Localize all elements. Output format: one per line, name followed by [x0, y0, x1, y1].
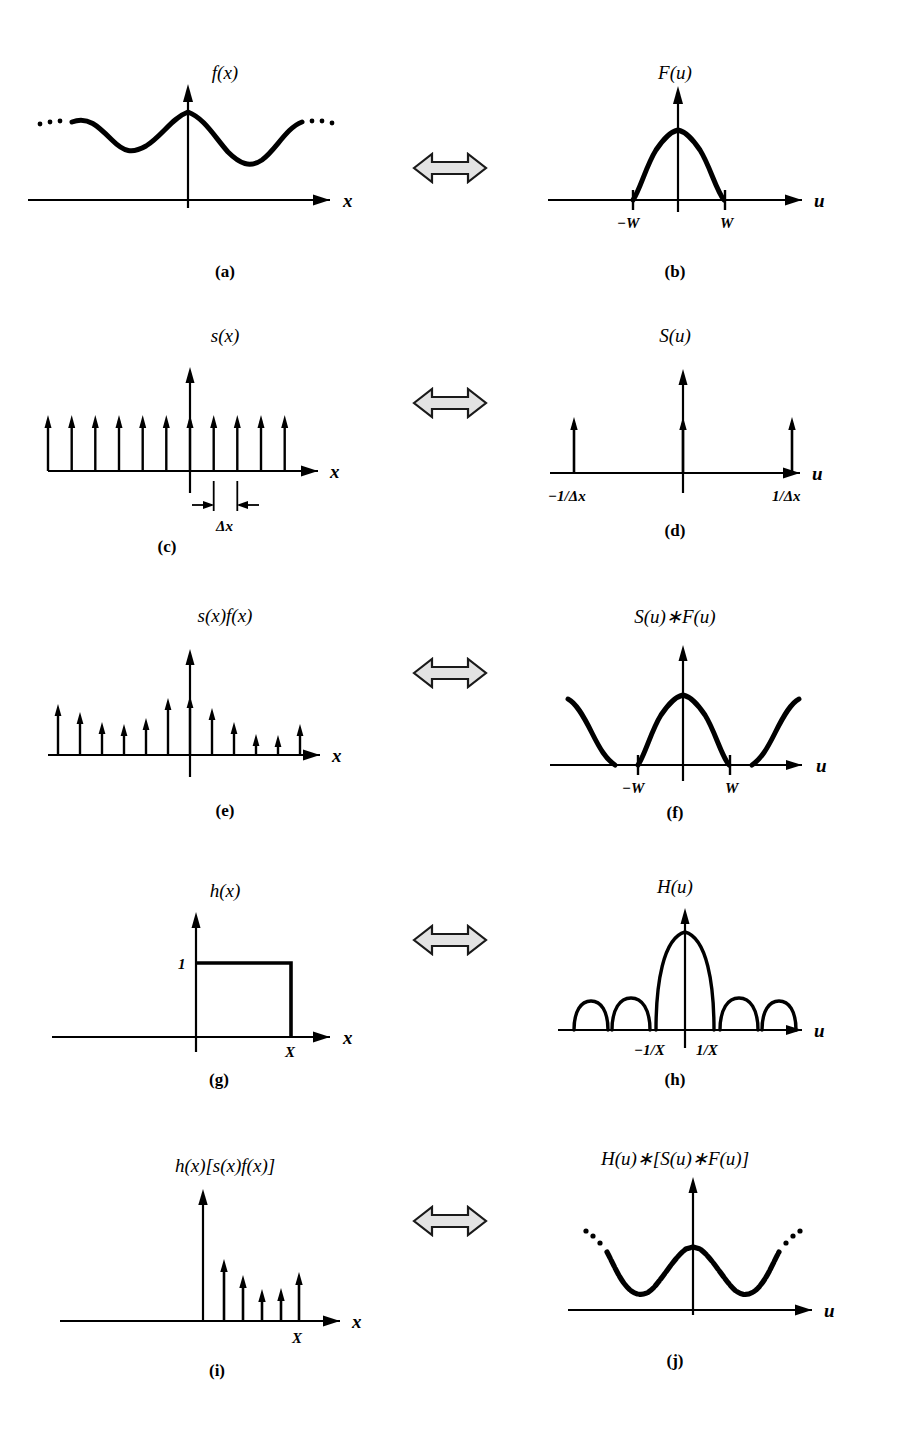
panel-g-plot: 1 X x: [0, 880, 450, 1080]
u-axis-arrowhead: [785, 195, 802, 206]
panel-i-caption: (i): [0, 1361, 442, 1381]
panel-c-caption: (c): [0, 537, 392, 557]
panel-f-tick-label-plus-w: W: [725, 780, 740, 796]
panel-b-caption: (b): [450, 262, 900, 282]
impulse-minus-one-over-delta-x: [570, 417, 577, 473]
panel-c-title: s(x): [0, 325, 450, 347]
panel-f-tick-label-minus-w: −W: [622, 780, 646, 796]
panel-c: s(x): [0, 325, 450, 555]
panel-c-plot: x Δx: [0, 325, 450, 555]
ellipsis-right-dot: [330, 121, 335, 126]
panel-a-title: f(x): [0, 62, 450, 84]
ellipsis-left-dot: [590, 1233, 595, 1238]
panel-a-caption: (a): [0, 262, 450, 282]
panel-e-plot: x: [0, 605, 450, 825]
ellipsis-right-dot: [310, 119, 315, 124]
figure-row-1: f(x) x (a): [0, 40, 900, 300]
y-axis-arrowhead: [681, 908, 690, 924]
panel-h-plot: −1/X 1/X u: [450, 880, 900, 1090]
sinc-side-lobe-left-2: [574, 1001, 608, 1030]
ellipsis-left-dot: [58, 119, 63, 124]
panel-h-tick-label-minus: −1/X: [634, 1042, 666, 1058]
figure-row-3: s(x)f(x): [0, 605, 900, 875]
ellipsis-left-dot: [583, 1228, 588, 1233]
ellipsis-left-dot: [38, 122, 43, 127]
y-axis-arrowhead: [689, 1177, 698, 1193]
y-axis-arrowhead: [198, 1189, 207, 1205]
sinc-side-lobe-right-1: [720, 998, 758, 1030]
panel-i-title: h(x)[s(x)f(x)]: [0, 1155, 450, 1177]
x-axis-arrowhead: [313, 195, 330, 206]
panel-f-title: S(u)∗F(u): [450, 605, 900, 628]
spectrum-replica-left: [568, 699, 615, 765]
panel-h-x-axis-label: u: [814, 1020, 825, 1041]
modulated-impulse-train: [55, 696, 304, 755]
y-axis-arrowhead: [679, 369, 688, 385]
panel-g-caption: (g): [0, 1070, 444, 1090]
panel-b-title: F(u): [450, 62, 900, 84]
panel-d-caption: (d): [450, 521, 900, 541]
y-axis-arrowhead: [186, 649, 195, 665]
y-axis-arrowhead: [186, 367, 195, 383]
y-axis-arrowhead: [679, 645, 688, 661]
panel-i-x-axis-label: x: [351, 1311, 362, 1332]
y-axis-arrowhead: [192, 912, 201, 928]
panel-h-tick-label-plus: 1/X: [696, 1042, 719, 1058]
panel-b: F(u) −W W u (b): [450, 40, 900, 240]
figure-row-5: h(x)[s(x)f(x)] X x (i): [0, 1155, 900, 1445]
sampling-figure: f(x) x (a): [0, 0, 900, 1450]
panel-b-tick-label-plus-w: W: [720, 215, 735, 231]
panel-d-tick-label-minus: −1/Δx: [548, 488, 586, 504]
panel-e-caption: (e): [0, 801, 450, 821]
panel-j: H(u)∗[S(u)∗F(u)] u (j): [450, 1155, 900, 1385]
figure-row-4: h(x) 1 X x (g) H(u): [0, 880, 900, 1140]
panel-d: S(u) −1/Δx 1: [450, 325, 900, 555]
ellipsis-right-dot: [783, 1240, 788, 1245]
ellipsis-left-dot: [48, 120, 53, 125]
figure-row-2: s(x): [0, 325, 900, 595]
y-axis-arrowhead: [673, 86, 683, 104]
u-axis-arrowhead: [786, 1025, 802, 1035]
panel-g-title: h(x): [0, 880, 450, 902]
x-axis-arrowhead: [313, 1032, 330, 1043]
panel-a-x-axis-label: x: [342, 190, 353, 211]
delta-x-measure: [192, 481, 259, 511]
panel-a: f(x) x (a): [0, 40, 450, 240]
panel-h-title: H(u): [450, 876, 900, 898]
panel-e-x-axis-label: x: [331, 745, 342, 766]
windowed-impulse-train: [220, 1259, 302, 1321]
impulse-plus-one-over-delta-x: [788, 417, 795, 473]
x-axis-arrowhead: [303, 750, 320, 761]
panel-i-plot: X x: [0, 1155, 450, 1385]
impulse-center: [679, 417, 686, 473]
panel-e: s(x)f(x): [0, 605, 450, 825]
x-axis-arrowhead: [323, 1316, 340, 1327]
panel-d-x-axis-label: u: [812, 463, 823, 484]
panel-g-tick-label-x: X: [284, 1044, 296, 1060]
u-axis-arrowhead: [786, 760, 802, 770]
panel-f-caption: (f): [450, 803, 900, 823]
panel-i-tick-label-x: X: [291, 1330, 303, 1346]
panel-f-x-axis-label: u: [816, 755, 827, 776]
panel-d-tick-label-plus: 1/Δx: [772, 488, 801, 504]
panel-h-caption: (h): [450, 1070, 900, 1090]
spectrum-replica-right: [752, 699, 799, 765]
panel-b-x-axis-label: u: [814, 190, 825, 211]
panel-c-x-axis-label: x: [329, 461, 340, 482]
impulse-train: [45, 415, 289, 471]
panel-g: h(x) 1 X x (g): [0, 880, 450, 1080]
panel-c-spacing-label: Δx: [215, 518, 233, 534]
sinc-side-lobe-right-2: [762, 1001, 796, 1030]
panel-d-title: S(u): [450, 325, 900, 347]
ellipsis-left-dot: [597, 1240, 602, 1245]
panel-b-tick-label-minus-w: −W: [617, 215, 641, 231]
panel-g-x-axis-label: x: [342, 1027, 353, 1048]
panel-g-value-label: 1: [178, 956, 186, 972]
panel-j-x-axis-label: u: [824, 1300, 835, 1321]
panel-i: h(x)[s(x)f(x)] X x (i): [0, 1155, 450, 1385]
panel-f: S(u)∗F(u) −W W u (f): [450, 605, 900, 825]
panel-f-plot: −W W u: [450, 605, 900, 825]
ellipsis-right-dot: [797, 1228, 802, 1233]
sinc-side-lobe-left-1: [612, 998, 650, 1030]
rectangular-pulse: [196, 963, 291, 1037]
